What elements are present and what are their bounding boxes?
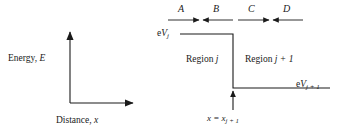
region-j-plus-1-symbol: j + 1 [275,54,294,64]
wave-label-d: D [283,4,290,14]
lower-potential-subscript: j + 1 [306,83,320,91]
upper-potential-subscript: j [167,32,169,40]
position-marker-label: x = xj + 1 [207,114,239,125]
position-marker-prefix: x = x [207,113,226,123]
x-axis-label: Distance, x [56,116,98,126]
diagram-canvas [0,0,338,133]
upper-potential-label: eVj [157,29,169,40]
wave-label-c: C [248,4,255,14]
wave-label-b: B [213,4,219,14]
y-axis-label: Energy, E [8,54,45,64]
x-axis-symbol: x [94,115,98,125]
y-axis-symbol: E [39,53,45,63]
region-j-symbol: j [216,54,219,64]
position-marker-subscript: j + 1 [226,117,239,124]
region-label-j: Region j [186,55,218,65]
lower-potential-label: eVj + 1 [296,80,320,91]
potential-step-figure: Energy, E Distance, x A B C D eVj eVj + … [0,0,338,133]
wave-label-a: A [178,4,184,14]
region-label-j-plus-1: Region j + 1 [245,55,293,65]
